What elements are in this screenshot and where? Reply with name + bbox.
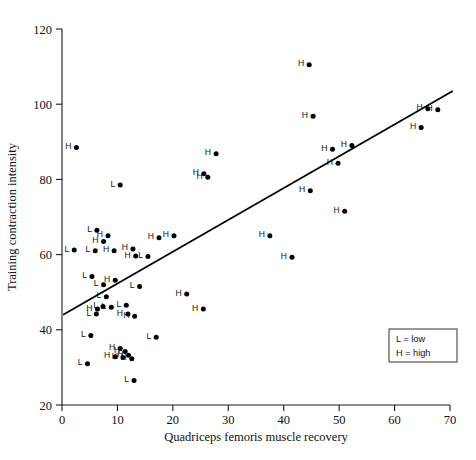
data-point-high bbox=[349, 143, 354, 148]
x-tick-label: 70 bbox=[444, 413, 457, 427]
data-point-label: H bbox=[417, 102, 423, 112]
data-point-label: L bbox=[64, 244, 69, 254]
data-point-label: H bbox=[121, 352, 127, 362]
data-point-high bbox=[157, 235, 162, 240]
data-point-low bbox=[154, 335, 159, 340]
data-point-label: L bbox=[130, 280, 135, 290]
data-point-high bbox=[106, 233, 111, 238]
plot-canvas: 20406080100120010203040506070Quadriceps … bbox=[0, 0, 476, 460]
x-tick-label: 20 bbox=[167, 413, 180, 427]
data-point-label: H bbox=[148, 231, 154, 241]
data-point-label: H bbox=[321, 143, 327, 153]
legend-entry-high: H = high bbox=[396, 348, 430, 358]
data-point-high bbox=[95, 307, 100, 312]
data-point-label: H bbox=[163, 229, 169, 239]
data-point-label: H bbox=[86, 303, 92, 313]
data-point-label: H bbox=[341, 139, 347, 149]
data-point-high bbox=[113, 354, 118, 359]
data-point-label: H bbox=[299, 184, 305, 194]
data-point-high bbox=[311, 114, 316, 119]
data-point-high bbox=[130, 246, 135, 251]
x-tick-label: 30 bbox=[222, 413, 235, 427]
data-point-low bbox=[93, 248, 98, 253]
data-point-low bbox=[137, 284, 142, 289]
data-point-label: L bbox=[82, 270, 87, 280]
data-point-high bbox=[307, 62, 312, 67]
data-point-high bbox=[205, 175, 210, 180]
data-point-low bbox=[109, 305, 114, 310]
legend-entry-low: L = low bbox=[396, 334, 425, 344]
data-point-label: H bbox=[117, 308, 123, 318]
data-point-label: H bbox=[125, 250, 131, 260]
data-point-label: H bbox=[123, 310, 129, 320]
y-tick-label: 100 bbox=[33, 98, 52, 112]
data-point-label: H bbox=[298, 58, 304, 68]
data-point-high bbox=[112, 248, 117, 253]
data-point-high bbox=[267, 233, 272, 238]
data-point-label: H bbox=[192, 303, 198, 313]
data-point-high bbox=[132, 314, 137, 319]
data-point-label: L bbox=[138, 250, 143, 260]
x-tick-label: 40 bbox=[277, 413, 290, 427]
data-point-label: H bbox=[92, 235, 98, 245]
data-point-high bbox=[308, 188, 313, 193]
data-point-label: L bbox=[87, 224, 92, 234]
data-point-label: H bbox=[104, 274, 110, 284]
data-point-label: H bbox=[333, 205, 339, 215]
data-point-high bbox=[214, 151, 219, 156]
x-tick-label: 60 bbox=[388, 413, 401, 427]
data-point-label: H bbox=[410, 121, 416, 131]
data-point-label: L bbox=[110, 179, 115, 189]
data-point-low bbox=[124, 303, 129, 308]
data-point-low bbox=[132, 378, 137, 383]
scatter-plot-figure: 20406080100120010203040506070Quadriceps … bbox=[0, 0, 476, 460]
y-tick-label: 20 bbox=[40, 399, 53, 413]
y-tick-label: 80 bbox=[40, 173, 53, 187]
regression-line bbox=[63, 91, 453, 315]
y-tick-label: 60 bbox=[40, 248, 53, 262]
x-tick-label: 10 bbox=[111, 413, 124, 427]
data-point-label: H bbox=[197, 171, 203, 181]
data-point-label: H bbox=[327, 157, 333, 167]
data-point-high bbox=[336, 161, 341, 166]
data-point-high bbox=[342, 209, 347, 214]
data-point-label: H bbox=[205, 147, 211, 157]
data-point-label: H bbox=[103, 244, 109, 254]
data-point-high bbox=[101, 239, 106, 244]
data-point-label: L bbox=[97, 290, 102, 300]
data-point-high bbox=[133, 254, 138, 259]
data-point-high bbox=[330, 147, 335, 152]
data-point-label: H bbox=[281, 251, 287, 261]
data-point-high bbox=[435, 107, 440, 112]
y-axis-title: Training contraction intensity bbox=[5, 142, 19, 291]
y-tick-label: 40 bbox=[40, 323, 53, 337]
data-point-low bbox=[118, 183, 123, 188]
data-point-high bbox=[171, 233, 176, 238]
data-point-label: L bbox=[124, 374, 129, 384]
data-point-low bbox=[145, 254, 150, 259]
data-point-high bbox=[201, 307, 206, 312]
x-tick-label: 0 bbox=[59, 413, 65, 427]
data-point-label: H bbox=[175, 288, 181, 298]
data-point-label: H bbox=[65, 141, 71, 151]
data-point-low bbox=[94, 312, 99, 317]
y-tick-label: 120 bbox=[33, 23, 52, 37]
data-point-label: L bbox=[102, 301, 107, 311]
data-point-high bbox=[419, 125, 424, 130]
data-point-high bbox=[290, 255, 295, 260]
data-point-high bbox=[74, 145, 79, 150]
data-point-label: H bbox=[427, 103, 433, 113]
data-point-label: L bbox=[94, 278, 99, 288]
data-point-low bbox=[88, 333, 93, 338]
data-point-label: H bbox=[302, 110, 308, 120]
data-point-low bbox=[104, 294, 109, 299]
x-tick-label: 50 bbox=[333, 413, 346, 427]
data-point-label: L bbox=[146, 331, 151, 341]
data-point-label: H bbox=[104, 350, 110, 360]
x-axis-title: Quadriceps femoris muscle recovery bbox=[164, 430, 348, 444]
data-point-label: H bbox=[259, 229, 265, 239]
data-point-high bbox=[184, 292, 189, 297]
data-point-label: L bbox=[85, 244, 90, 254]
data-point-high bbox=[129, 356, 134, 361]
data-point-high bbox=[113, 278, 118, 283]
